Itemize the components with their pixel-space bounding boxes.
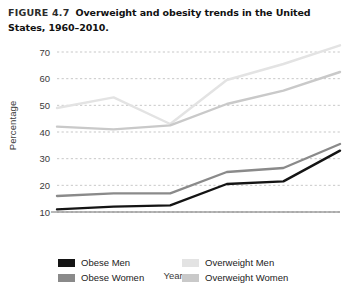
- line-chart: 70605040302010: [0, 32, 351, 237]
- figure-caption: FIGURE 4.7Overweight and obesity trends …: [8, 4, 346, 34]
- legend-label: Obese Men: [81, 257, 130, 268]
- y-tick-label: 70: [39, 47, 50, 58]
- y-tick-label: 10: [39, 207, 50, 218]
- series-line-obese-women: [57, 144, 340, 196]
- y-tick-label: 40: [39, 127, 50, 138]
- legend-item-obese-women: Obese Women: [58, 270, 182, 285]
- legend-swatch-icon: [182, 274, 199, 282]
- legend-swatch-icon: [58, 259, 75, 267]
- legend-swatch-icon: [58, 274, 75, 282]
- legend-label: Overweight Women: [205, 272, 288, 283]
- y-tick-label: 20: [39, 180, 50, 191]
- series-line-obese-men: [57, 151, 340, 210]
- legend-label: Overweight Men: [205, 257, 274, 268]
- figure-label: FIGURE 4.7: [8, 7, 69, 18]
- y-axis-title: Percentage: [7, 90, 18, 162]
- legend-item-overweight-men: Overweight Men: [182, 255, 338, 270]
- y-tick-label: 60: [39, 73, 50, 84]
- legend-swatch-icon: [182, 259, 199, 267]
- series-line-overweight-men: [57, 45, 340, 124]
- legend-label: Obese Women: [81, 272, 144, 283]
- y-tick-label: 50: [39, 100, 50, 111]
- legend-item-obese-men: Obese Men: [58, 255, 182, 270]
- chart-legend: Obese Men Overweight Men Obese Women Ove…: [58, 255, 338, 285]
- plot-area: Percentage 70605040302010 Years: [0, 32, 351, 237]
- legend-item-overweight-women: Overweight Women: [182, 270, 338, 285]
- figure-container: FIGURE 4.7Overweight and obesity trends …: [0, 0, 351, 294]
- y-tick-label: 30: [39, 153, 50, 164]
